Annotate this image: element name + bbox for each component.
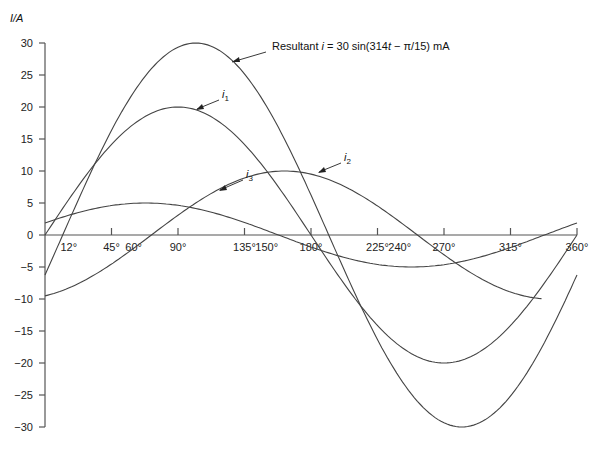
chart: 302520151050−5−10−15−20−25−30 12°45°60°9…	[0, 0, 611, 450]
x-tick-label: 12°	[60, 241, 77, 253]
y-tick-label: −20	[14, 357, 33, 369]
y-tick-label: −15	[14, 325, 33, 337]
i3-annotation: i3	[219, 168, 253, 191]
y-tick-label: −10	[14, 293, 33, 305]
y-tick-label: 10	[21, 165, 33, 177]
y-tick-label: 15	[21, 133, 33, 145]
y-tick-label: 30	[21, 37, 33, 49]
y-tick-label: 0	[27, 229, 33, 241]
resultant-annotation: Resultant i = 30 sin(314t − π/15) mA	[232, 40, 450, 62]
x-tick-label: 240°	[388, 241, 411, 253]
y-tick-label: 20	[21, 101, 33, 113]
y-axis: 302520151050−5−10−15−20−25−30	[14, 37, 45, 433]
y-tick-label: 25	[21, 69, 33, 81]
x-tick-label: 90°	[170, 241, 187, 253]
arrow-head-icon	[318, 167, 326, 173]
x-tick-label: 150°	[255, 241, 278, 253]
x-tick-label: 270°	[433, 241, 456, 253]
i3-label: i3	[246, 168, 253, 183]
arrow-head-icon	[196, 104, 204, 110]
y-tick-label: −5	[20, 261, 33, 273]
x-tick-label: 225°	[366, 241, 389, 253]
i2-annotation: i2	[318, 151, 351, 173]
i1-annotation: i1	[196, 88, 229, 110]
arrow-head-icon	[232, 57, 240, 62]
i2-label: i2	[344, 151, 351, 166]
x-tick-label: 60°	[125, 241, 142, 253]
i1-label: i1	[222, 88, 229, 103]
y-tick-label: −30	[14, 421, 33, 433]
x-tick-label: 135°	[233, 241, 256, 253]
y-tick-label: −25	[14, 389, 33, 401]
y-axis-label: I/A	[10, 12, 23, 24]
y-tick-label: 5	[27, 197, 33, 209]
resultant-label: Resultant i = 30 sin(314t − π/15) mA	[272, 40, 450, 52]
x-tick-label: 45°	[103, 241, 120, 253]
